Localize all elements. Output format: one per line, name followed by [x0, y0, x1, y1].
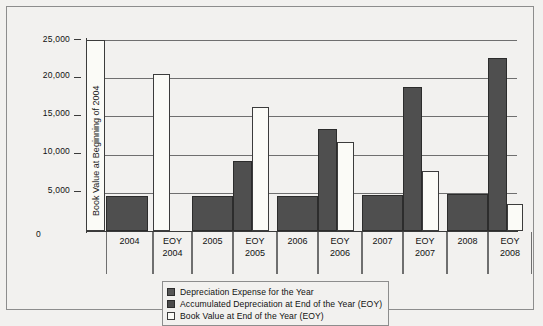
bar-2005-depreciation-expense	[192, 196, 233, 231]
bar-eoy-2007-accumulated-depreciation	[403, 87, 422, 231]
y-tick-label-25000: 25,000	[43, 34, 70, 44]
x-label-2004: 2004	[106, 232, 153, 274]
bar-2008-depreciation-expense	[447, 194, 488, 231]
chart-legend: Depreciation Expense for the Year Accumu…	[162, 281, 389, 326]
legend-item-accumulated-depreciation: Accumulated Depreciation at End of the Y…	[167, 298, 382, 309]
x-label-eoy-2006-line2: 2006	[319, 247, 361, 259]
x-label-2005-line1: 2005	[193, 235, 232, 247]
gridline-10000	[87, 155, 517, 156]
x-label-2007-line1: 2007	[363, 235, 402, 247]
x-label-2008: 2008	[447, 232, 488, 274]
legend-item-depreciation-expense: Depreciation Expense for the Year	[167, 286, 382, 297]
bar-2006-depreciation-expense	[277, 196, 318, 231]
x-label-eoy-2004-line1: EOY	[154, 235, 191, 247]
x-label-eoy-2007-line2: 2007	[404, 247, 446, 259]
legend-swatch-icon-depreciation-expense	[167, 288, 175, 296]
x-label-2008-line1: 2008	[448, 235, 487, 247]
bar-book-value-beginning-2004: Book Value at Beginning of 2004	[86, 40, 105, 231]
gridline-20000	[87, 78, 517, 79]
y-tick-label-20000: 20,000	[43, 70, 70, 80]
gridline-25000	[87, 40, 517, 41]
x-label-eoy-2008: EOY 2008	[488, 232, 532, 274]
chart-frame: 25,000 20,000 15,000 10,000 5,000 0 Book…	[6, 6, 534, 310]
x-label-eoy-2008-line2: 2008	[489, 247, 531, 259]
legend-label-depreciation-expense: Depreciation Expense for the Year	[180, 287, 314, 297]
legend-swatch-icon-book-value-eoy	[167, 312, 175, 320]
x-label-eoy-2007: EOY 2007	[403, 232, 447, 274]
x-label-eoy-2006: EOY 2006	[318, 232, 362, 274]
bar-2004-depreciation-expense	[106, 196, 148, 231]
y-tick-label-5000: 5,000	[48, 185, 70, 195]
y-tick-mark-10000	[74, 153, 81, 154]
y-tick-label-0: 0	[36, 229, 41, 239]
y-tick-mark-5000	[74, 191, 81, 192]
y-tick-label-10000: 10,000	[43, 146, 70, 156]
x-label-2004-line1: 2004	[107, 235, 152, 247]
bar-eoy-2005-book-value	[252, 107, 269, 231]
x-label-2005: 2005	[192, 232, 233, 274]
y-tick-mark-25000	[74, 39, 81, 40]
x-label-2007: 2007	[362, 232, 403, 274]
legend-item-book-value-eoy: Book Value at End of the Year (EOY)	[167, 310, 382, 321]
bar-eoy-2006-accumulated-depreciation	[318, 129, 337, 231]
x-label-eoy-2004: EOY 2004	[153, 232, 192, 274]
bar-eoy-2008-book-value	[507, 204, 523, 231]
gridline-15000	[87, 116, 517, 117]
bar-eoy-2005-accumulated-depreciation	[233, 161, 252, 231]
legend-label-book-value-eoy: Book Value at End of the Year (EOY)	[180, 311, 324, 321]
x-label-eoy-2005-line1: EOY	[234, 235, 276, 247]
bar-eoy-2004-book-value	[153, 74, 170, 231]
y-tick-mark-15000	[74, 115, 81, 116]
legend-label-accumulated-depreciation: Accumulated Depreciation at End of the Y…	[180, 299, 382, 309]
x-label-eoy-2005-line2: 2005	[234, 247, 276, 259]
legend-swatch-icon-accumulated-depreciation	[167, 300, 175, 308]
x-label-eoy-2005: EOY 2005	[233, 232, 277, 274]
y-tick-label-15000: 15,000	[43, 108, 70, 118]
bar-eoy-2007-book-value	[422, 171, 439, 231]
bar-eoy-2008-accumulated-depreciation	[488, 58, 507, 231]
bar-eoy-2006-book-value	[337, 142, 354, 231]
bar-book-value-beginning-2004-label: Book Value at Beginning of 2004	[91, 86, 101, 216]
y-tick-mark-20000	[74, 77, 81, 78]
x-label-eoy-2008-line1: EOY	[489, 235, 531, 247]
plot-area: Book Value at Beginning of 2004	[87, 40, 517, 231]
x-label-eoy-2004-line2: 2004	[154, 247, 191, 259]
x-label-2006: 2006	[277, 232, 318, 274]
x-label-2006-line1: 2006	[278, 235, 317, 247]
x-label-eoy-2006-line1: EOY	[319, 235, 361, 247]
x-label-eoy-2007-line1: EOY	[404, 235, 446, 247]
bar-2007-depreciation-expense	[362, 195, 403, 231]
x-axis-category-labels: 2004 EOY 2004 2005 EOY 2005 2006 EOY 200…	[87, 232, 517, 274]
